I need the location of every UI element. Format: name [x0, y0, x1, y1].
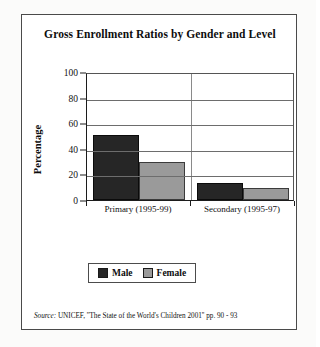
- x-tick-mark: [86, 201, 87, 206]
- x-tick-mark: [190, 201, 191, 206]
- y-tick-label: 60: [50, 119, 78, 129]
- x-axis-category-labels: Primary (1995-99)Secondary (1995-97): [86, 204, 294, 220]
- source-text: UNICEF, ''The State of the World's Child…: [58, 312, 237, 320]
- y-axis-title-label: Percentage: [33, 124, 44, 173]
- plot-area: [86, 73, 294, 201]
- y-tick-label: 20: [50, 170, 78, 180]
- legend-swatch-icon: [143, 268, 153, 278]
- x-tick-mark: [294, 201, 295, 206]
- plot-wrapper: Percentage 020406080100 Primary (1995-99…: [22, 73, 298, 233]
- bar-male-0: [93, 135, 139, 200]
- legend-swatch-icon: [98, 268, 108, 278]
- figure-frame: Gross Enrollment Ratios by Gender and Le…: [21, 14, 297, 330]
- gridline: [87, 100, 293, 101]
- x-category-label: Primary (1995-99): [86, 204, 190, 214]
- y-tick-label: 40: [50, 145, 78, 155]
- legend-item-female: Female: [143, 268, 187, 278]
- bar-female-1: [243, 188, 289, 200]
- y-axis-title: Percentage: [31, 101, 45, 197]
- x-category-label: Secondary (1995-97): [190, 204, 294, 214]
- category-separator: [191, 74, 192, 200]
- y-tick-label: 100: [50, 68, 78, 78]
- bar-male-1: [197, 183, 243, 200]
- source-note: Source: UNICEF, ''The State of the World…: [34, 312, 286, 320]
- y-tick-label: 80: [50, 94, 78, 104]
- legend-label: Male: [112, 268, 133, 278]
- y-tick-label: 0: [50, 196, 78, 206]
- y-axis-tick-labels: 020406080100: [50, 73, 78, 201]
- bar-female-0: [139, 162, 185, 200]
- bars-layer: [87, 74, 293, 200]
- legend-item-male: Male: [98, 268, 133, 278]
- legend-label: Female: [157, 268, 187, 278]
- gridline: [87, 125, 293, 126]
- chart-legend: MaleFemale: [88, 263, 196, 283]
- gridline: [87, 176, 293, 177]
- gridline: [87, 151, 293, 152]
- chart-title: Gross Enrollment Ratios by Gender and Le…: [36, 27, 284, 41]
- source-prefix: Source:: [34, 312, 56, 320]
